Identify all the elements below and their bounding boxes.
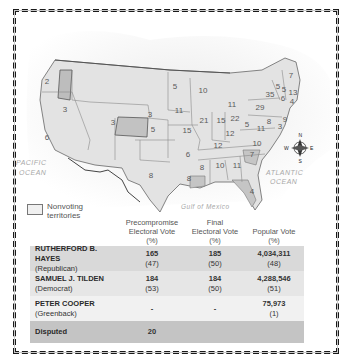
state-electoral-count: 10 bbox=[253, 139, 262, 148]
state-electoral-count: 7 bbox=[289, 71, 294, 80]
header-final: Final Electoral Vote (%) bbox=[186, 218, 244, 246]
state-electoral-count: 5 bbox=[151, 125, 156, 134]
header-precompromise: Precompromise Electoral Vote (%) bbox=[118, 218, 186, 246]
state-electoral-count: 2 bbox=[45, 77, 50, 86]
state-electoral-count: 8 bbox=[149, 171, 154, 180]
state-electoral-count: 11 bbox=[175, 106, 184, 115]
popular-vote: 75,973 bbox=[244, 299, 304, 309]
pre-vote: 184 bbox=[118, 274, 186, 284]
state-electoral-count: 15 bbox=[217, 116, 226, 125]
pacific-label-1: PACIFIC bbox=[16, 159, 47, 166]
table-row: RUTHERFORD B. HAYES(Republican) 165(47) … bbox=[30, 246, 304, 271]
table-row-disputed: Disputed 20 bbox=[30, 321, 304, 343]
state-electoral-count: 3 bbox=[63, 105, 68, 114]
state-electoral-count: 21 bbox=[200, 116, 209, 125]
state-electoral-count: 3 bbox=[278, 122, 283, 131]
candidate-name: SAMUEL J. TILDEN bbox=[35, 274, 118, 284]
state-electoral-count: 13 bbox=[289, 88, 298, 97]
atlantic-label-1: ATLANTIC bbox=[265, 169, 304, 176]
final-vote: 185 bbox=[186, 249, 244, 259]
popular-vote: 4,034,311 bbox=[244, 249, 304, 259]
candidate-name: RUTHERFORD B. HAYES bbox=[35, 244, 118, 264]
pre-pct: (53) bbox=[118, 284, 186, 294]
state-electoral-count: 5 bbox=[173, 82, 178, 91]
state-electoral-count: 12 bbox=[226, 129, 235, 138]
state-electoral-count: 22 bbox=[231, 114, 240, 123]
header-popular: Popular Vote (%) bbox=[244, 218, 304, 246]
state-electoral-count: 6 bbox=[281, 94, 286, 103]
pre-vote: - bbox=[118, 304, 186, 314]
us-map: 2365101131135152115222935755136493851112… bbox=[15, 11, 337, 231]
state-electoral-count: 5 bbox=[282, 85, 287, 94]
candidate-name: PETER COOPER bbox=[35, 299, 118, 309]
state-electoral-count: 11 bbox=[233, 161, 242, 170]
state-electoral-count: 4 bbox=[250, 187, 255, 196]
svg-text:N: N bbox=[299, 132, 303, 138]
state-electoral-count: 11 bbox=[257, 124, 266, 133]
state-electoral-count: 3 bbox=[148, 110, 153, 119]
pre-pct: (47) bbox=[118, 259, 186, 269]
popular-pct: (48) bbox=[244, 259, 304, 269]
state-electoral-count: 35 bbox=[266, 90, 275, 99]
pre-vote: 165 bbox=[118, 249, 186, 259]
candidate-party: (Democrat) bbox=[35, 284, 118, 294]
header-candidate bbox=[30, 218, 118, 246]
election-results-table: Precompromise Electoral Vote (%) Final E… bbox=[30, 218, 304, 343]
popular-vote: 4,288,546 bbox=[244, 274, 304, 284]
svg-text:W: W bbox=[284, 145, 289, 151]
pacific-label-2: OCEAN bbox=[19, 169, 47, 176]
state-electoral-count: 5 bbox=[245, 120, 250, 129]
final-pct: (50) bbox=[186, 259, 244, 269]
gulf-label: Gulf of Mexico bbox=[181, 203, 230, 210]
popular-pct: (1) bbox=[244, 309, 304, 319]
map-svg: 2365101131135152115222935755136493851112… bbox=[15, 11, 337, 231]
state-electoral-count: 11 bbox=[228, 100, 237, 109]
table-header: Precompromise Electoral Vote (%) Final E… bbox=[30, 218, 304, 246]
state-electoral-count: 9 bbox=[283, 115, 288, 124]
final-vote: - bbox=[186, 304, 244, 314]
state-electoral-count: 6 bbox=[186, 150, 191, 159]
state-electoral-count: 8 bbox=[200, 163, 205, 172]
state-electoral-count: 7 bbox=[250, 150, 255, 159]
state-electoral-count: 10 bbox=[216, 161, 225, 170]
state-electoral-count: 6 bbox=[45, 133, 50, 142]
state-electoral-count: 10 bbox=[199, 86, 208, 95]
state-electoral-count: 8 bbox=[187, 174, 192, 183]
final-vote: 184 bbox=[186, 274, 244, 284]
state-electoral-count: 29 bbox=[256, 103, 265, 112]
disputed-label: Disputed bbox=[35, 327, 118, 337]
final-pct: (50) bbox=[186, 284, 244, 294]
state-electoral-count: 3 bbox=[111, 118, 116, 127]
state-electoral-count: 4 bbox=[290, 97, 295, 106]
candidate-party: (Greenback) bbox=[35, 309, 118, 319]
state-electoral-count: 15 bbox=[183, 126, 192, 135]
disputed-votes: 20 bbox=[118, 327, 186, 337]
state-electoral-count: 5 bbox=[276, 82, 281, 91]
candidate-party: (Republican) bbox=[35, 264, 118, 274]
table-row: PETER COOPER(Greenback) - - 75,973(1) bbox=[30, 296, 304, 321]
state-electoral-count: 12 bbox=[214, 141, 223, 150]
nonvoting-swatch bbox=[27, 204, 43, 215]
atlantic-label-2: OCEAN bbox=[270, 178, 298, 185]
popular-pct: (51) bbox=[244, 284, 304, 294]
table-row: SAMUEL J. TILDEN(Democrat) 184(53) 184(5… bbox=[30, 271, 304, 296]
state-electoral-count: 8 bbox=[267, 117, 272, 126]
